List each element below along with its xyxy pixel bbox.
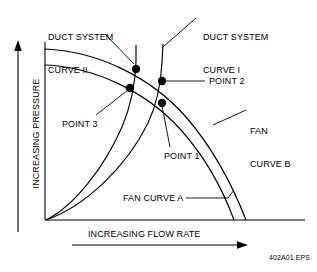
point-1-label: POINT 1 [164,151,200,162]
point-2-label: POINT 2 [209,76,245,87]
point-marker-2 [158,77,166,85]
figure-code: 402A01.EPS [269,252,310,263]
duct-system-curve-2-label: DUCT SYSTEM CURVE II [48,10,113,98]
duct-system-curve-1-label-line2: CURVE I [203,65,268,76]
operating-points [126,65,166,107]
y-axis [14,40,22,232]
point-marker-3 [126,84,134,92]
fan-curve-diagram: DUCT SYSTEM CURVE II DUCT SYSTEM CURVE I… [0,0,317,272]
y-axis-label: INCREASING PRESSURE [31,64,42,204]
duct-system-curve-2-label-line1: DUCT SYSTEM [48,32,113,43]
duct-system-curve-1-label-line1: DUCT SYSTEM [203,32,268,43]
fan-curve-a-label: FAN CURVE A [123,193,183,204]
fan-curve-b-label: FAN CURVE B [250,104,291,192]
fan-curve-b-label-line1: FAN [250,126,291,137]
fan-curve-b-label-line2: CURVE B [250,159,291,170]
duct-system-curve-2-label-line2: CURVE II [48,65,113,76]
point-marker-b-ii [132,65,140,73]
x-axis-arrow [72,241,248,249]
point-marker-1 [158,99,166,107]
point-3-label: POINT 3 [62,119,98,130]
x-axis-label: INCREASING FLOW RATE [88,229,200,240]
